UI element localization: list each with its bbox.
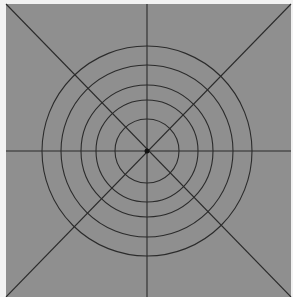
center-point: [145, 149, 150, 154]
polar-grid-diagram: [0, 0, 293, 297]
